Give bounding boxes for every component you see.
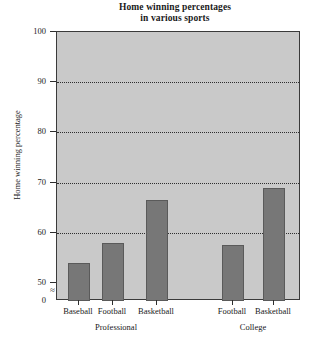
gridline-80 <box>57 132 299 133</box>
x-group-label: Professional <box>61 322 171 332</box>
gridline-70 <box>57 183 299 184</box>
bar <box>102 243 124 301</box>
y-axis-title: Home winning percentage <box>12 90 22 220</box>
x-tick-label: Basketball <box>238 306 308 316</box>
bar <box>146 200 168 301</box>
plot-area <box>56 31 300 300</box>
y-tick-label: 80 <box>20 127 46 136</box>
chart-title: Home winning percentages in various spor… <box>60 2 290 24</box>
y-tick-label: 0 <box>20 296 46 305</box>
x-group-label: College <box>198 322 308 332</box>
bar <box>263 188 285 301</box>
y-tick-mark <box>50 182 56 183</box>
y-tick-mark <box>50 31 56 32</box>
y-tick-mark <box>50 282 56 283</box>
y-tick-mark <box>50 232 56 233</box>
y-tick-label: 90 <box>20 77 46 86</box>
x-tick-mark <box>112 300 113 305</box>
x-tick-label: Basketball <box>121 306 191 316</box>
y-tick-mark <box>50 81 56 82</box>
chart-title-line-1: Home winning percentages <box>60 2 290 13</box>
x-tick-mark <box>156 300 157 305</box>
bar <box>222 245 244 301</box>
bar <box>68 263 90 301</box>
x-tick-mark <box>273 300 274 305</box>
y-axis-break-symbol: ≈ <box>50 286 55 295</box>
bar-chart-figure: Home winning percentages in various spor… <box>0 0 320 348</box>
y-tick-label: 60 <box>20 228 46 237</box>
y-tick-label: 100 <box>20 27 46 36</box>
gridline-90 <box>57 82 299 83</box>
y-tick-label: 50 <box>20 278 46 287</box>
x-tick-mark <box>232 300 233 305</box>
chart-title-line-2: in various sports <box>60 13 290 24</box>
x-tick-mark <box>78 300 79 305</box>
y-tick-label: 70 <box>20 178 46 187</box>
y-tick-mark <box>50 131 56 132</box>
